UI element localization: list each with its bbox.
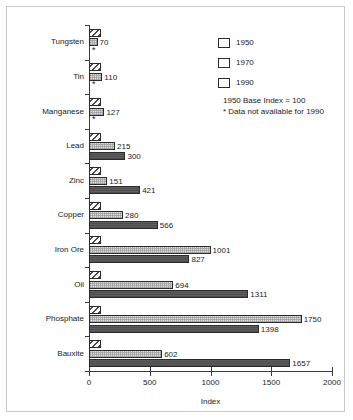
value-axis-tick xyxy=(271,367,272,372)
category-label: Oil xyxy=(74,280,84,289)
bar-value-label: 70 xyxy=(100,38,109,47)
bar-value-label: 421 xyxy=(142,186,155,195)
bar-value-label: 215 xyxy=(117,142,130,151)
value-axis-tick xyxy=(89,367,90,372)
category-axis-tick xyxy=(85,267,90,268)
category-label: Phosphate xyxy=(46,314,84,323)
bar-1970[interactable]: 215 xyxy=(89,142,115,150)
category-axis-tick xyxy=(85,129,90,130)
value-axis-tick xyxy=(332,372,333,376)
value-axis-tick xyxy=(150,372,151,376)
category-label: Zinc xyxy=(69,176,84,185)
bar-value-label: 110 xyxy=(104,72,117,81)
legend-item-1950: 1950 xyxy=(218,35,254,50)
legend-label-1970: 1970 xyxy=(236,58,254,67)
value-axis-tick xyxy=(271,372,272,376)
bar-value-label: 566 xyxy=(160,220,173,229)
value-axis-tick-label: 1000 xyxy=(202,378,220,387)
bar-1970[interactable]: 1001 xyxy=(89,246,211,254)
category-axis-tick xyxy=(85,60,90,61)
legend-label-1990: 1990 xyxy=(236,78,254,87)
category-label: Tin xyxy=(73,72,84,81)
bar-1990[interactable]: 300 xyxy=(89,152,125,160)
category-label: Lead xyxy=(66,141,84,150)
bar-1990[interactable]: 566 xyxy=(89,221,158,229)
value-axis-tick xyxy=(89,372,90,376)
legend-swatch-1970-icon xyxy=(218,58,230,68)
category-axis-tick xyxy=(85,94,90,95)
bar-value-label: 280 xyxy=(125,211,138,220)
bar-group: Oil6941311 xyxy=(89,271,332,298)
bar-1950[interactable] xyxy=(89,340,101,348)
bar-group: Zinc151421 xyxy=(89,167,332,194)
value-axis-tick xyxy=(150,367,151,372)
bar-1950[interactable] xyxy=(89,63,101,71)
bar-1990[interactable]: 827 xyxy=(89,255,189,263)
category-label: Manganese xyxy=(42,107,84,116)
bar-group: Lead215300 xyxy=(89,133,332,160)
bar-group: Phosphate17501398 xyxy=(89,306,332,333)
data-not-available-marker: * xyxy=(92,47,96,53)
bar-1950[interactable] xyxy=(89,306,101,314)
bar-value-label: 827 xyxy=(191,255,204,264)
bar-1990[interactable]: 421 xyxy=(89,186,140,194)
value-axis-tick xyxy=(211,372,212,376)
chart-legend: 1950 1970 1990 xyxy=(218,35,254,95)
bar-1990[interactable]: 1657 xyxy=(89,359,290,367)
bar-1990[interactable]: 1398 xyxy=(89,325,259,333)
category-axis-tick xyxy=(85,198,90,199)
legend-item-1970: 1970 xyxy=(218,55,254,70)
category-label: Bauxite xyxy=(57,349,84,358)
chart-figure: 0500100015002000 Tungsten70*Tin110*Manga… xyxy=(6,6,345,412)
legend-label-1950: 1950 xyxy=(236,38,254,47)
bar-1950[interactable] xyxy=(89,98,101,106)
bar-1970[interactable]: 694 xyxy=(89,281,173,289)
bar-value-label: 1398 xyxy=(261,324,279,333)
bar-group: Iron Ore1001827 xyxy=(89,236,332,263)
legend-item-1990: 1990 xyxy=(218,75,254,90)
value-axis-tick-label: 2000 xyxy=(323,378,341,387)
value-axis-tick-label: 500 xyxy=(143,378,156,387)
bar-1950[interactable] xyxy=(89,271,101,279)
value-axis-tick xyxy=(332,367,333,372)
bar-value-label: 694 xyxy=(175,280,188,289)
bar-value-label: 1001 xyxy=(213,245,231,254)
bar-1950[interactable] xyxy=(89,202,101,210)
bar-value-label: 1311 xyxy=(250,290,267,299)
category-label: Iron Ore xyxy=(55,245,84,254)
bar-value-label: 151 xyxy=(109,176,122,185)
category-axis-tick xyxy=(85,302,90,303)
category-axis-tick xyxy=(85,25,90,26)
category-label: Tungsten xyxy=(51,37,84,46)
bar-1970[interactable]: 1750 xyxy=(89,315,302,323)
bar-1950[interactable] xyxy=(89,29,101,37)
bar-group: Tungsten70* xyxy=(89,29,332,56)
bar-group: Tin110* xyxy=(89,63,332,90)
bar-group: Copper280566 xyxy=(89,202,332,229)
bar-1970[interactable]: 602 xyxy=(89,350,162,358)
bar-1950[interactable] xyxy=(89,133,101,141)
x-axis-title: Index xyxy=(89,397,332,406)
legend-notes: 1950 Base Index = 100 * Data not availab… xyxy=(223,95,324,117)
bar-1970[interactable]: 151 xyxy=(89,177,107,185)
data-not-available-marker: * xyxy=(92,116,96,122)
bar-group: Bauxite6021657 xyxy=(89,340,332,367)
bar-1990[interactable]: 1311 xyxy=(89,290,248,298)
bar-1950[interactable] xyxy=(89,167,101,175)
value-axis-tick-label: 0 xyxy=(87,378,91,387)
category-axis-tick xyxy=(85,163,90,164)
plot-area: 0500100015002000 Tungsten70*Tin110*Manga… xyxy=(89,25,332,371)
bar-1970[interactable]: 280 xyxy=(89,211,123,219)
bar-1950[interactable] xyxy=(89,236,101,244)
bar-value-label: 602 xyxy=(164,349,177,358)
value-axis-tick xyxy=(211,367,212,372)
legend-swatch-1990-icon xyxy=(218,78,230,88)
category-label: Copper xyxy=(58,210,84,219)
bar-value-label: 1750 xyxy=(304,315,322,324)
value-axis-tick-label: 1500 xyxy=(262,378,280,387)
legend-swatch-1950-icon xyxy=(218,38,230,48)
bar-value-label: 300 xyxy=(127,151,140,160)
bar-value-label: 1657 xyxy=(292,359,310,368)
bar-value-label: 127 xyxy=(106,107,119,116)
data-not-available-marker: * xyxy=(92,81,96,87)
